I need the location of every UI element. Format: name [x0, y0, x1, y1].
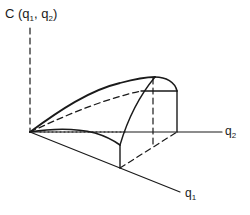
q1-axis [30, 132, 180, 192]
q2-axis-label: q2 [225, 124, 236, 138]
c-axis-label: C (q1, q2) [5, 6, 57, 21]
cost-function-diagram [0, 0, 250, 215]
base-dashed-line [120, 132, 177, 168]
surface-cap-curve [155, 77, 177, 91]
surface-front-ridge [120, 77, 155, 145]
q1-axis-label: q1 [185, 186, 196, 200]
